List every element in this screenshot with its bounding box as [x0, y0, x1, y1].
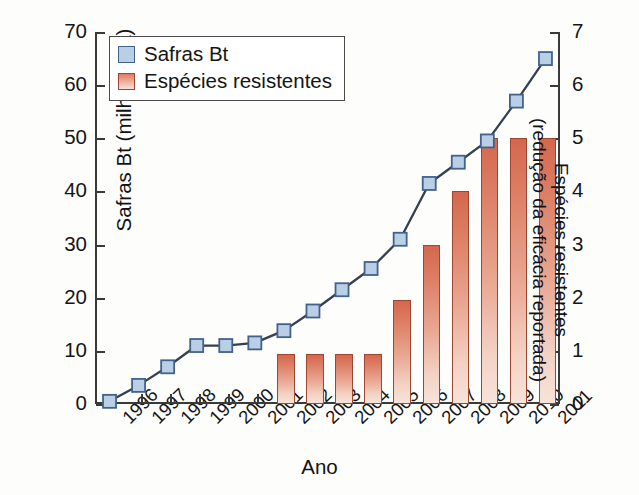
- legend-item-safras-bt: Safras Bt: [118, 41, 332, 68]
- line-marker: [481, 134, 494, 147]
- line-marker: [103, 395, 116, 408]
- line-marker: [219, 339, 232, 352]
- line-marker: [190, 339, 203, 352]
- right-axis-title: Espécies resistentes (redução da eficáci…: [527, 100, 572, 400]
- line-marker: [510, 95, 523, 108]
- line-marker: [306, 305, 319, 318]
- legend-item-especies-resistentes: Espécies resistentes: [118, 68, 332, 95]
- line-marker: [539, 52, 552, 65]
- line-marker: [365, 262, 378, 275]
- right-axis-title-line1: Espécies resistentes: [551, 163, 572, 337]
- line-marker: [452, 156, 465, 169]
- line-marker: [132, 379, 145, 392]
- chart-figure: 010203040506070 01234567 199619971998199…: [0, 0, 639, 495]
- line-marker: [277, 324, 290, 337]
- legend-label-safras-bt: Safras Bt: [144, 44, 228, 65]
- chart-legend: Safras Bt Espécies resistentes: [109, 36, 345, 101]
- line-marker: [394, 233, 407, 246]
- x-axis-title: Ano: [0, 455, 639, 479]
- legend-swatch-red-bar-icon: [118, 73, 135, 90]
- legend-label-especies-resistentes: Espécies resistentes: [144, 71, 332, 92]
- legend-swatch-blue-square-icon: [118, 46, 135, 63]
- line-marker: [423, 177, 436, 190]
- line-marker: [336, 283, 349, 296]
- right-axis-title-line2: (redução da eficácia reportada): [529, 118, 550, 382]
- line-marker: [161, 360, 174, 373]
- line-marker: [248, 336, 261, 349]
